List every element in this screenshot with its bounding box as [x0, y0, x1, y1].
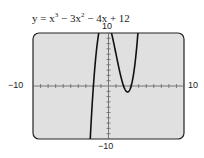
graph-plot	[0, 0, 204, 158]
